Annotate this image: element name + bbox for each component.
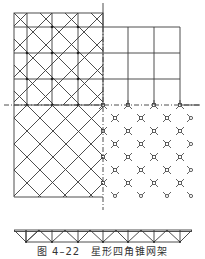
top-left-quadrant [14, 13, 103, 105]
bottom-left-quadrant [14, 105, 103, 197]
figure-caption: 图 4–22 星形四角锥网架 [0, 246, 205, 258]
bottom-right-quadrant [99, 100, 184, 187]
top-right-quadrant [103, 27, 180, 105]
truss-elevation [14, 230, 192, 242]
space-truss-diagram [0, 0, 205, 259]
